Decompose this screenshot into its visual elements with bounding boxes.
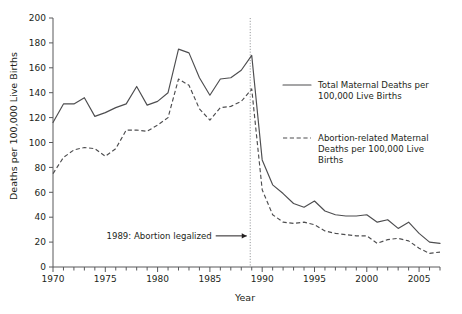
y-tick-label: 120 [29,113,46,123]
legend-label-line: Deaths per 100,000 Live [318,144,424,154]
y-tick-label: 20 [35,237,47,247]
x-tick-label: 1985 [198,274,221,284]
x-tick-label: 2000 [355,274,378,284]
y-tick-label: 140 [29,88,46,98]
x-tick-label: 1995 [303,274,326,284]
y-tick-label: 160 [29,63,46,73]
y-tick-label: 180 [29,38,46,48]
annotation-label: 1989: Abortion legalized [106,231,211,241]
x-axis-title: Year [234,292,255,303]
x-tick-label: 1980 [146,274,169,284]
y-tick-label: 100 [29,138,46,148]
y-tick-label: 200 [29,13,46,23]
y-tick-label: 60 [35,188,47,198]
legend-label-line: Abortion-related Maternal [318,133,429,143]
y-tick-label: 40 [35,212,47,222]
legend-label-line: Births [318,155,344,165]
chart-container: 020406080100120140160180200 197019751980… [0,0,462,314]
x-tick-label: 1975 [94,274,117,284]
maternal-deaths-line-chart: 020406080100120140160180200 197019751980… [0,0,462,314]
x-tick-label: 1990 [251,274,274,284]
y-axis-title: Deaths per 100,000 Live Births [8,52,19,200]
x-tick-label: 1970 [42,274,65,284]
legend-label-line: 100,000 Live Births [318,91,402,101]
y-tick-label: 80 [35,163,47,173]
legend-label-line: Total Maternal Deaths per [317,80,429,90]
y-tick-label: 0 [40,262,46,272]
x-tick-label: 2005 [408,274,431,284]
